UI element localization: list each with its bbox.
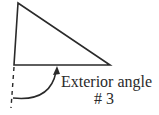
triangle bbox=[14, 3, 110, 65]
extended-side-dashed-line bbox=[11, 67, 14, 108]
triangle-exterior-angle-diagram bbox=[0, 0, 159, 115]
exterior-angle-arc-arrow bbox=[13, 72, 56, 98]
angle-number-label: # 3 bbox=[94, 91, 114, 107]
arrowhead-icon bbox=[53, 66, 60, 75]
exterior-angle-label: Exterior angle bbox=[61, 74, 152, 90]
